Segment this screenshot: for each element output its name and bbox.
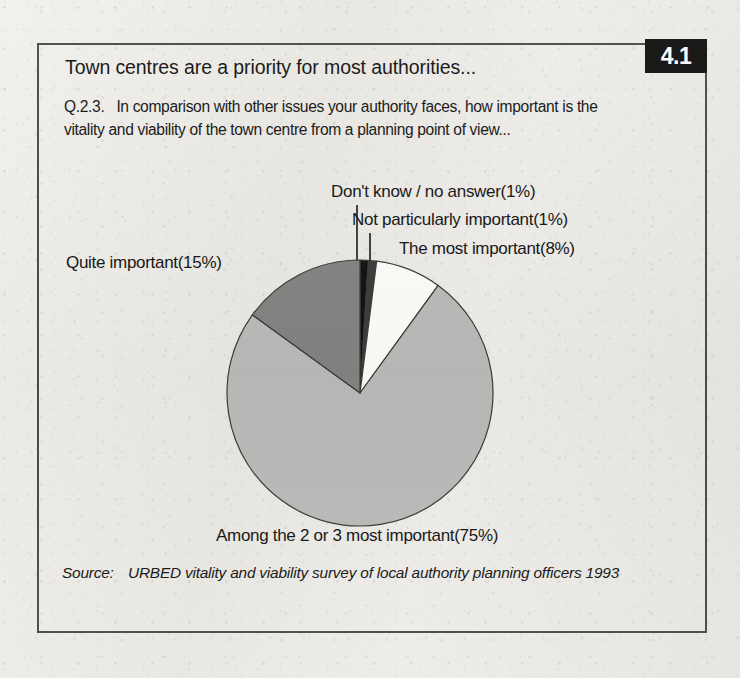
pie-label-among-2-or-3: Among the 2 or 3 most important(75%): [216, 527, 498, 546]
pie-slice-group: [227, 260, 493, 526]
source-text: URBED vitality and viability survey of l…: [128, 562, 648, 584]
pie-label-dont-know: Don't know / no answer(1%): [331, 183, 535, 202]
source-label: Source:: [62, 562, 128, 584]
pie-label-not-particularly: Not particularly important(1%): [352, 211, 568, 230]
pie-label-most-important: The most important(8%): [399, 240, 575, 259]
source-note: Source:URBED vitality and viability surv…: [62, 562, 662, 584]
pie-label-quite-important: Quite important(15%): [66, 254, 222, 273]
